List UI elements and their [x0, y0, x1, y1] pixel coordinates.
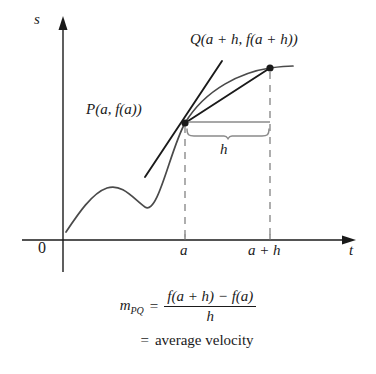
- formula-line-result: = average velocity: [0, 332, 376, 349]
- t-axis-label: t: [349, 243, 353, 258]
- s-axis-label: s: [34, 12, 40, 27]
- figure-container: s t 0 a a + h h P(a, f(a)) Q(a + h, f(a …: [0, 0, 376, 374]
- average-velocity-text: average velocity: [155, 332, 254, 349]
- formula-block: mPQ = f(a + h) − f(a) h = average veloci…: [0, 288, 376, 349]
- s-axis-arrowhead: [59, 16, 68, 30]
- point-q-label: Q(a + h, f(a + h)): [190, 32, 298, 47]
- tick-label-a: a: [180, 243, 188, 258]
- origin-label: 0: [38, 240, 46, 256]
- secant-line-pq: [185, 68, 270, 123]
- difference-quotient-fraction: f(a + h) − f(a) h: [164, 288, 256, 325]
- interval-label-h: h: [220, 142, 228, 157]
- point-p-label: P(a, f(a)): [86, 102, 142, 117]
- formula-line-slope: mPQ = f(a + h) − f(a) h: [0, 288, 376, 325]
- point-p-marker: [181, 119, 188, 126]
- tangent-line-at-p: [145, 61, 222, 177]
- fraction-denominator: h: [207, 307, 215, 325]
- slope-symbol-subscript: PQ: [130, 305, 143, 316]
- equals-sign-2: =: [140, 332, 148, 349]
- slope-symbol-base: m: [120, 297, 131, 313]
- h-brace: [187, 129, 269, 139]
- tick-label-a-plus-h: a + h: [248, 243, 281, 258]
- slope-symbol: mPQ: [120, 297, 144, 316]
- function-curve: [66, 66, 293, 232]
- point-q-marker: [266, 64, 273, 71]
- fraction-numerator: f(a + h) − f(a): [164, 288, 256, 306]
- equals-sign-1: =: [150, 298, 158, 315]
